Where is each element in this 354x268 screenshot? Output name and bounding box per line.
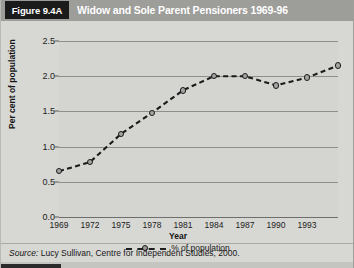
y-tick-label: 1.0 <box>15 142 55 152</box>
x-tick-label: 1993 <box>298 220 317 230</box>
y-tick-label: 0.5 <box>15 177 55 187</box>
figure-bottom-marker <box>1 264 61 268</box>
y-tick-label: 2.0 <box>15 71 55 81</box>
data-point-marker <box>273 82 280 89</box>
x-tick-label: 1972 <box>81 220 100 230</box>
series-line <box>59 41 338 217</box>
x-axis-title: Year <box>1 231 354 241</box>
figure-title: Widow and Sole Parent Pensioners 1969-96 <box>77 1 288 19</box>
x-tick-label: 1978 <box>143 220 162 230</box>
x-tick-label: 1969 <box>50 220 69 230</box>
plot-area <box>59 41 338 218</box>
source-divider <box>1 243 354 244</box>
y-tick-label: 2.5 <box>15 36 55 46</box>
figure-number-tag: Figure 9.4A <box>5 1 69 19</box>
data-point-marker <box>335 62 342 69</box>
x-tick-label: 1984 <box>205 220 224 230</box>
source-text: Lucy Sullivan, Centre for Independent St… <box>41 248 240 258</box>
data-point-marker <box>304 74 311 81</box>
x-tick-label: 1981 <box>174 220 193 230</box>
y-tick-label: 1.5 <box>15 106 55 116</box>
data-point-marker <box>180 87 187 94</box>
source-note: Source: Lucy Sullivan, Centre for Indepe… <box>9 248 240 258</box>
source-label: Source: <box>9 248 38 258</box>
x-tick-label: 1975 <box>112 220 131 230</box>
chart-area: Per cent of population Year % of populat… <box>1 21 354 243</box>
figure-container: Figure 9.4A Widow and Sole Parent Pensio… <box>0 0 354 268</box>
x-tick-label: 1987 <box>236 220 255 230</box>
x-tick-label: 1990 <box>267 220 286 230</box>
